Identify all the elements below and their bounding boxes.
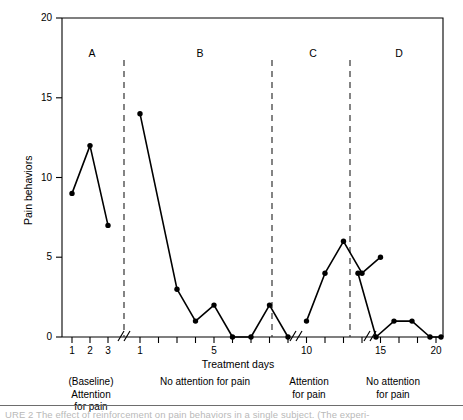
y-tick-label-15: 15 (28, 93, 52, 103)
series-phase-d (355, 271, 443, 340)
series-phase-c (304, 239, 383, 324)
x-tick-label-b5: 5 (204, 346, 224, 356)
pain-behaviors-line-chart (0, 0, 463, 420)
phase-label-c: C (303, 48, 323, 59)
y-tick-label-5: 5 (28, 252, 52, 262)
series-phase-a (69, 143, 110, 228)
x-tick-label-a2: 2 (80, 346, 100, 356)
x-tick-label-b1: 1 (130, 346, 150, 356)
phase-label-d: D (389, 48, 409, 59)
y-axis-title: Pain behaviors (22, 156, 34, 225)
phase-caption-a: (Baseline) Attention for pain (52, 376, 130, 414)
phase-caption-c: Attention for pain (274, 376, 344, 401)
y-axis-ticks (56, 18, 62, 337)
x-tick-label-b10: 10 (297, 346, 317, 356)
x-tick-label-a3: 3 (98, 346, 118, 356)
y-tick-label-20: 20 (28, 13, 52, 23)
phase-caption-d: No attention for pain (352, 376, 434, 401)
x-axis-ticks (72, 337, 436, 343)
series-phase-b (137, 111, 290, 340)
phase-label-a: A (82, 48, 102, 59)
plot-frame (62, 18, 443, 337)
phase-label-b: B (190, 48, 210, 59)
figure-container: 20 15 10 5 0 Pain behaviors 1 2 3 1 5 10… (0, 0, 463, 420)
axis-break-marks (118, 331, 376, 341)
figure-caption-partial: URE 2 The effect of reinforcement on pai… (5, 409, 460, 420)
caption-divider-rule (0, 405, 463, 406)
y-tick-label-0: 0 (28, 332, 52, 342)
x-tick-label-a1: 1 (62, 346, 82, 356)
x-tick-label-d20: 20 (426, 346, 446, 356)
x-axis-title: Treatment days (168, 359, 308, 370)
x-tick-label-c15: 15 (371, 346, 391, 356)
phase-caption-b: No attention for pain (140, 376, 270, 389)
